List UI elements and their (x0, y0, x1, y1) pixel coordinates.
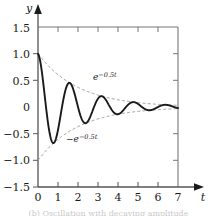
y-axis-label: y (25, 2, 33, 15)
y-tick-label: −0.5 (3, 128, 30, 141)
y-tick-label: 1.5 (13, 22, 31, 35)
x-tick-label: 0 (35, 191, 42, 204)
y-tick-label: −1.5 (3, 181, 30, 194)
x-axis-label: t (201, 191, 206, 204)
lower-annot-exponent: −0.5t (79, 133, 98, 141)
x-tick-label: 3 (95, 191, 102, 204)
y-tick-labels: 1.5 1.0 0.5 0 −0.5 −1.0 −1.5 (3, 22, 30, 194)
x-tick-label: 2 (75, 191, 82, 204)
x-axis-ticks (58, 182, 158, 187)
lower-envelope-curve (38, 109, 178, 161)
x-tick-label: 1 (55, 191, 62, 204)
upper-envelope-curve (38, 54, 178, 106)
x-tick-label: 7 (175, 191, 182, 204)
upper-envelope-annotation: e−0.5t (93, 71, 117, 83)
plot-canvas: 1.5 1.0 0.5 0 −0.5 −1.0 −1.5 0 1 2 3 4 5… (0, 0, 217, 216)
x-tick-label: 4 (115, 191, 122, 204)
lower-annot-base: −e (66, 134, 79, 144)
y-tick-label: 0.5 (13, 75, 31, 88)
x-axis (38, 183, 204, 190)
upper-annot-exponent: −0.5t (98, 71, 117, 79)
top-frame-ticks (58, 27, 158, 32)
x-tick-labels: 0 1 2 3 4 5 6 7 (35, 191, 182, 204)
svg-text:−e−0.5t: −e−0.5t (66, 133, 98, 145)
damped-oscillation-curve (38, 54, 178, 143)
figure-caption: (b) Oscillation with decaying amplitude (0, 209, 217, 216)
damped-oscillation-figure: 1.5 1.0 0.5 0 −0.5 −1.0 −1.5 0 1 2 3 4 5… (0, 0, 217, 216)
y-tick-label: −1.0 (3, 154, 30, 167)
y-tick-label: 0 (23, 101, 30, 114)
svg-text:e−0.5t: e−0.5t (93, 71, 117, 83)
y-tick-label: 1.0 (13, 48, 31, 61)
y-axis-ticks (33, 54, 38, 187)
x-tick-label: 5 (135, 191, 142, 204)
x-tick-label: 6 (155, 191, 162, 204)
lower-envelope-annotation: −e−0.5t (66, 133, 98, 145)
